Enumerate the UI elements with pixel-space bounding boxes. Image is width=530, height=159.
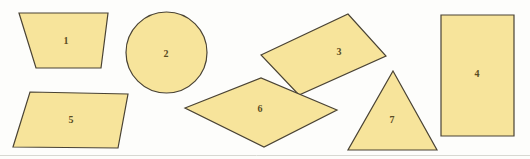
shape-label-6: 6 <box>258 103 263 114</box>
shape-label-2: 2 <box>164 48 169 59</box>
shape-label-4: 4 <box>475 68 480 79</box>
shape-triangle-7[interactable] <box>348 71 437 150</box>
shape-label-3: 3 <box>337 46 342 57</box>
shape-label-1: 1 <box>64 35 69 46</box>
geometric-shapes-figure: 1 2 3 4 5 6 7 <box>0 0 530 159</box>
shape-label-5: 5 <box>69 114 74 125</box>
shape-rotated-rectangle-3[interactable] <box>261 14 386 95</box>
shape-label-7: 7 <box>390 114 395 125</box>
shapes-svg-canvas: 1 2 3 4 5 6 7 <box>0 0 530 159</box>
